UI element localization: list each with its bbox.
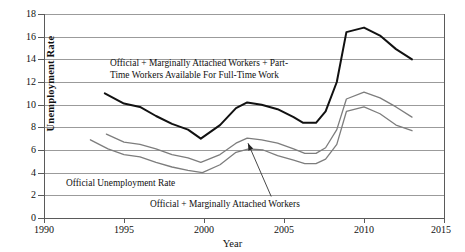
x-tick-2005 [284, 218, 285, 223]
annotation-u6-line1: Official + Marginally Attached Workers +… [110, 58, 288, 70]
y-tick-label-16: 16 [6, 32, 36, 42]
x-axis-line [44, 218, 445, 219]
x-tick-2010 [364, 218, 365, 223]
y-tick-label-8: 8 [6, 122, 36, 132]
y-tick-label-12: 12 [6, 77, 36, 87]
y-tick-label-6: 6 [6, 145, 36, 155]
x-tick-2000 [204, 218, 205, 223]
x-tick-1990 [44, 218, 45, 223]
x-tick-label-1995: 1995 [104, 224, 144, 235]
x-tick-label-2010: 2010 [344, 224, 384, 235]
x-tick-label-2000: 2000 [184, 224, 224, 235]
series-line-official-unemployment-rate [90, 107, 412, 173]
y-tick-label-18: 18 [6, 9, 36, 19]
x-axis-title: Year [0, 238, 465, 249]
y-tick-label-10: 10 [6, 100, 36, 110]
x-tick-1995 [124, 218, 125, 223]
y-tick-label-0: 0 [6, 213, 36, 223]
x-tick-label-2015: 2015 [421, 224, 461, 235]
right-axis-line [444, 14, 445, 218]
annotation-u6-line2: Time Workers Available For Full-Time Wor… [110, 70, 288, 82]
page-header-remnant [6, 0, 446, 5]
series-line-official-plus-marginally-attached [106, 92, 412, 162]
y-tick-label-14: 14 [6, 54, 36, 64]
chart-figure: 18 16 14 12 10 8 6 4 2 0 1990 1995 2000 … [0, 0, 465, 252]
annotation-official-rate: Official Unemployment Rate [66, 178, 175, 190]
y-tick-label-2: 2 [6, 190, 36, 200]
x-tick-2015 [444, 218, 445, 223]
annotation-marginally-attached: Official + Marginally Attached Workers [150, 199, 300, 211]
x-tick-label-1990: 1990 [24, 224, 64, 235]
series-line-official-plus-marginal-plus-parttime [105, 28, 412, 139]
y-tick-label-4: 4 [6, 168, 36, 178]
x-tick-label-2005: 2005 [264, 224, 304, 235]
annotation-u6: Official + Marginally Attached Workers +… [110, 58, 288, 81]
